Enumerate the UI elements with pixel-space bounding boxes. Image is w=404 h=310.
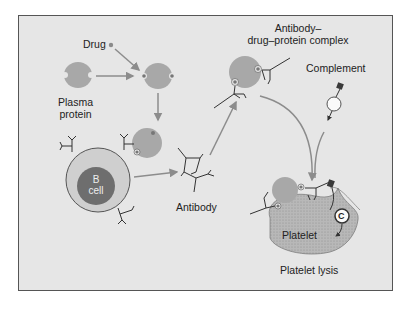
complement-label: Complement <box>306 62 366 74</box>
drug-protein-icon <box>141 63 175 89</box>
plasma-protein-icon <box>62 62 94 88</box>
plasma-protein-label-line1: Plasma <box>58 96 93 108</box>
complex-label-line2: drug–protein complex <box>228 34 368 46</box>
platelet-label: Platelet <box>282 229 317 241</box>
drug-icon <box>109 43 113 47</box>
b-cell-label-line2: cell <box>86 185 106 196</box>
antibody-icon <box>178 148 214 192</box>
antibody-label: Antibody <box>176 201 217 213</box>
plasma-protein-label-line2: protein <box>58 108 93 120</box>
drug-label: Drug <box>83 38 106 50</box>
drug-protein-bound-icon <box>132 128 162 158</box>
complement-icon <box>327 82 344 120</box>
plasma-protein-label: Plasma protein <box>58 96 93 120</box>
complement-c-label: C <box>338 210 345 222</box>
diagram-canvas <box>0 0 404 310</box>
platelet-lysis-label: Platelet lysis <box>280 264 338 276</box>
antibody-drug-protein-complex-icon <box>214 56 290 108</box>
b-cell-label-line1: B <box>86 174 106 185</box>
b-cell-label: B cell <box>86 174 106 196</box>
complex-label: Antibody– drug–protein complex <box>228 22 368 46</box>
complex-label-line1: Antibody– <box>228 22 368 34</box>
